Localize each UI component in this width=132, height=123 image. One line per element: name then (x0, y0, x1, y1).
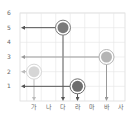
arrows (23, 28, 107, 99)
x-tick-label: 나 (46, 103, 52, 111)
data-point (101, 52, 112, 63)
x-tick-label: 가 (31, 103, 37, 111)
y-tick-label: 5 (7, 24, 11, 31)
y-tick-label: 1 (7, 82, 11, 89)
y-tick-label: 4 (7, 38, 11, 45)
data-point (29, 66, 40, 77)
y-tick-label: 3 (7, 53, 11, 60)
x-tick-label: 다 (60, 103, 66, 111)
y-tick-label: 6 (7, 9, 11, 16)
y-axis: 123456 (7, 9, 11, 89)
x-tick-label: 사 (118, 103, 124, 111)
chart: 123456 가나다라마바사 (0, 0, 132, 123)
x-tick-label: 바 (104, 103, 110, 111)
data-point (72, 81, 83, 92)
x-tick-label: 라 (75, 103, 81, 111)
y-tick-label: 2 (7, 68, 11, 75)
x-axis: 가나다라마바사 (31, 103, 124, 111)
x-tick-label: 마 (89, 103, 95, 111)
data-point (58, 22, 69, 33)
